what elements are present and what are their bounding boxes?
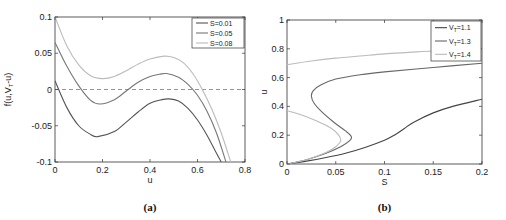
y-tick-label: 1 [279,15,284,25]
x-tick-label: 0.05 [327,167,345,177]
chart-b-x-axis-label: S [381,177,387,187]
x-tick-label: 0 [284,167,289,177]
legend-entry-label: S=0.05 [210,30,232,37]
x-tick-label: 0.15 [424,167,442,177]
legend-entry-label: S=0.08 [210,40,232,47]
y-tick-label: 0 [47,85,52,95]
x-tick-label: 0.2 [96,165,109,175]
chart-b: 00.050.10.150.2 00.20.40.60.81 S u VT=1.… [259,15,488,214]
figure: 00.20.40.60.8 -0.1-0.0500.050.1 u f(u,VT… [0,0,506,220]
y-tick-label: 0.2 [271,130,284,140]
x-tick-label: 0.6 [191,165,204,175]
chart-a-legend: S=0.01S=0.05S=0.08 [192,18,244,48]
a-series-line [55,42,226,162]
y-tick-label: 0.1 [39,12,52,22]
chart-a: 00.20.40.60.8 -0.1-0.0500.050.1 u f(u,VT… [3,12,251,214]
x-tick-label: 0.8 [239,165,252,175]
x-tick-label: 0.2 [476,167,489,177]
chart-a-x-axis-label: u [147,175,152,185]
y-tick-label: 0.05 [34,48,52,58]
y-tick-label: 0 [279,159,284,169]
y-tick-label: -0.1 [36,157,52,167]
chart-a-y-axis-label: f(u,VT-u) [3,73,14,107]
chart-a-caption: (a) [144,201,157,214]
chart-b-legend: VT=1.1VT=1.3VT=1.4 [431,21,481,61]
y-tick-label: -0.05 [31,121,52,131]
x-tick-label: 0.4 [144,165,157,175]
chart-b-caption: (b) [378,201,392,214]
chart-b-series [287,49,482,164]
x-tick-label: 0 [52,165,57,175]
legend-entry-label: S=0.01 [210,20,232,27]
y-tick-label: 0.8 [271,44,284,54]
b-series-line [287,63,482,164]
y-tick-label: 0.4 [271,101,284,111]
y-tick-label: 0.6 [271,73,284,83]
chart-b-y-axis-label: u [259,89,269,94]
b-series-line [287,99,482,164]
x-tick-label: 0.1 [378,167,391,177]
